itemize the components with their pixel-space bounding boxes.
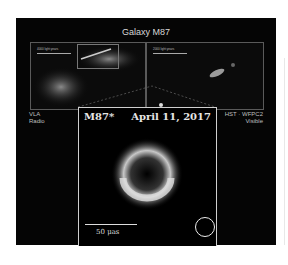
observation-date: April 11, 2017	[131, 111, 211, 122]
figure-panel: Galaxy M87 4000 light years 2000 light y…	[16, 18, 276, 245]
m87-black-hole-image: M87* April 11, 2017 50 μas	[78, 107, 217, 246]
object-name: M87*	[84, 111, 114, 122]
beam-circle-icon	[195, 217, 215, 237]
scale-bar-label: 50 μas	[96, 228, 119, 236]
page-edge-line	[284, 58, 285, 245]
scale-bar	[85, 224, 137, 225]
